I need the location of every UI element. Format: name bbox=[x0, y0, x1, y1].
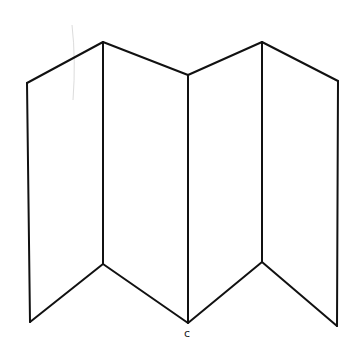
fold-line-5 bbox=[337, 81, 338, 326]
folding-screen-diagram bbox=[0, 0, 352, 357]
fold-line-1 bbox=[27, 83, 30, 322]
scan-artifact-line bbox=[72, 25, 74, 100]
vertex-label-c: c bbox=[184, 328, 190, 339]
bottom-edge bbox=[30, 262, 337, 326]
